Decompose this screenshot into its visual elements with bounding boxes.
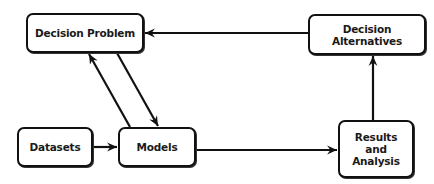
decision-process-diagram: Decision Problem Decision Alternatives D… bbox=[0, 0, 434, 184]
node-decision-problem: Decision Problem bbox=[26, 13, 144, 53]
node-label: Datasets bbox=[30, 141, 81, 153]
node-decision-alternatives: Decision Alternatives bbox=[308, 14, 426, 55]
node-label: Decision Alternatives bbox=[332, 23, 402, 47]
node-label: Decision Problem bbox=[35, 27, 135, 39]
node-label: Models bbox=[137, 141, 178, 153]
node-models: Models bbox=[118, 127, 196, 167]
node-label: Results and Analysis bbox=[352, 131, 400, 167]
node-results-and-analysis: Results and Analysis bbox=[338, 120, 414, 178]
node-datasets: Datasets bbox=[17, 127, 93, 167]
